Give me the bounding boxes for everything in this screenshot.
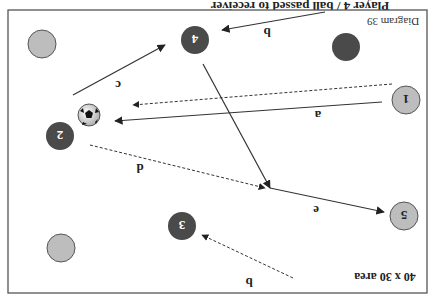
player-2: 2 xyxy=(46,122,74,150)
player-dark-top-right xyxy=(332,33,360,61)
arrow-label-d: d xyxy=(136,161,144,176)
area-label: 40 x 30 area xyxy=(354,270,415,284)
svg-text:a: a xyxy=(314,108,321,123)
player-3: 3 xyxy=(168,212,196,240)
svg-text:4: 4 xyxy=(191,32,198,47)
svg-text:2: 2 xyxy=(57,128,64,143)
svg-text:1: 1 xyxy=(403,92,410,107)
svg-text:b: b xyxy=(263,25,270,40)
soccer-ball-icon xyxy=(78,104,100,126)
arrow-label-e: e xyxy=(313,203,319,218)
player-1: 1 xyxy=(392,86,420,114)
diagram-label: Diagram 39 xyxy=(366,16,419,28)
arrow-label-b-bottom: b xyxy=(245,275,252,290)
arrow-label-b-top: b xyxy=(263,25,270,40)
svg-text:5: 5 xyxy=(400,208,407,223)
svg-text:Diagram 39: Diagram 39 xyxy=(366,16,419,28)
arrow-label-c: c xyxy=(115,78,121,93)
svg-text:40 x 30 area: 40 x 30 area xyxy=(354,270,415,284)
svg-text:c: c xyxy=(115,78,121,93)
arrow-label-a: a xyxy=(314,108,321,123)
diagram-canvas: Player 4 / ball passed to receiver Diagr… xyxy=(0,0,434,300)
svg-text:b: b xyxy=(245,275,252,290)
svg-text:e: e xyxy=(313,203,319,218)
svg-text:3: 3 xyxy=(178,218,185,233)
player-4: 4 xyxy=(181,26,209,54)
player-light-top-left xyxy=(28,30,56,58)
svg-text:d: d xyxy=(136,161,144,176)
player-light-bottom-left xyxy=(47,234,75,262)
player-5: 5 xyxy=(390,202,418,230)
